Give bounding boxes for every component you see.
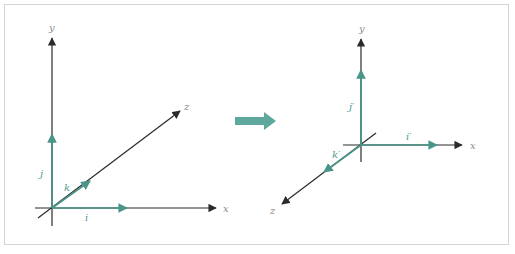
right-y-label: y <box>358 23 365 34</box>
right-k-vector <box>324 145 361 172</box>
right-k-label: k′ <box>332 149 341 160</box>
right-coordinate-system: y x z j′ i′ k′ <box>269 23 476 216</box>
coordinate-diagram: y z x j k i y x z j′ i′ k′ <box>0 0 515 254</box>
left-coordinate-system: y z x j k i <box>35 22 229 226</box>
right-x-label: x <box>470 140 476 151</box>
left-j-label: j <box>38 168 43 179</box>
left-k-vector <box>52 181 90 208</box>
right-i-label: i′ <box>406 131 412 142</box>
left-i-label: i <box>85 212 88 223</box>
right-j-label: j′ <box>347 101 355 112</box>
left-y-label: y <box>48 22 55 33</box>
right-arrow-icon <box>235 112 276 130</box>
right-z-label: z <box>269 205 276 216</box>
left-z-label: z <box>183 101 190 112</box>
left-k-label: k <box>64 182 70 193</box>
left-x-label: x <box>223 203 229 214</box>
